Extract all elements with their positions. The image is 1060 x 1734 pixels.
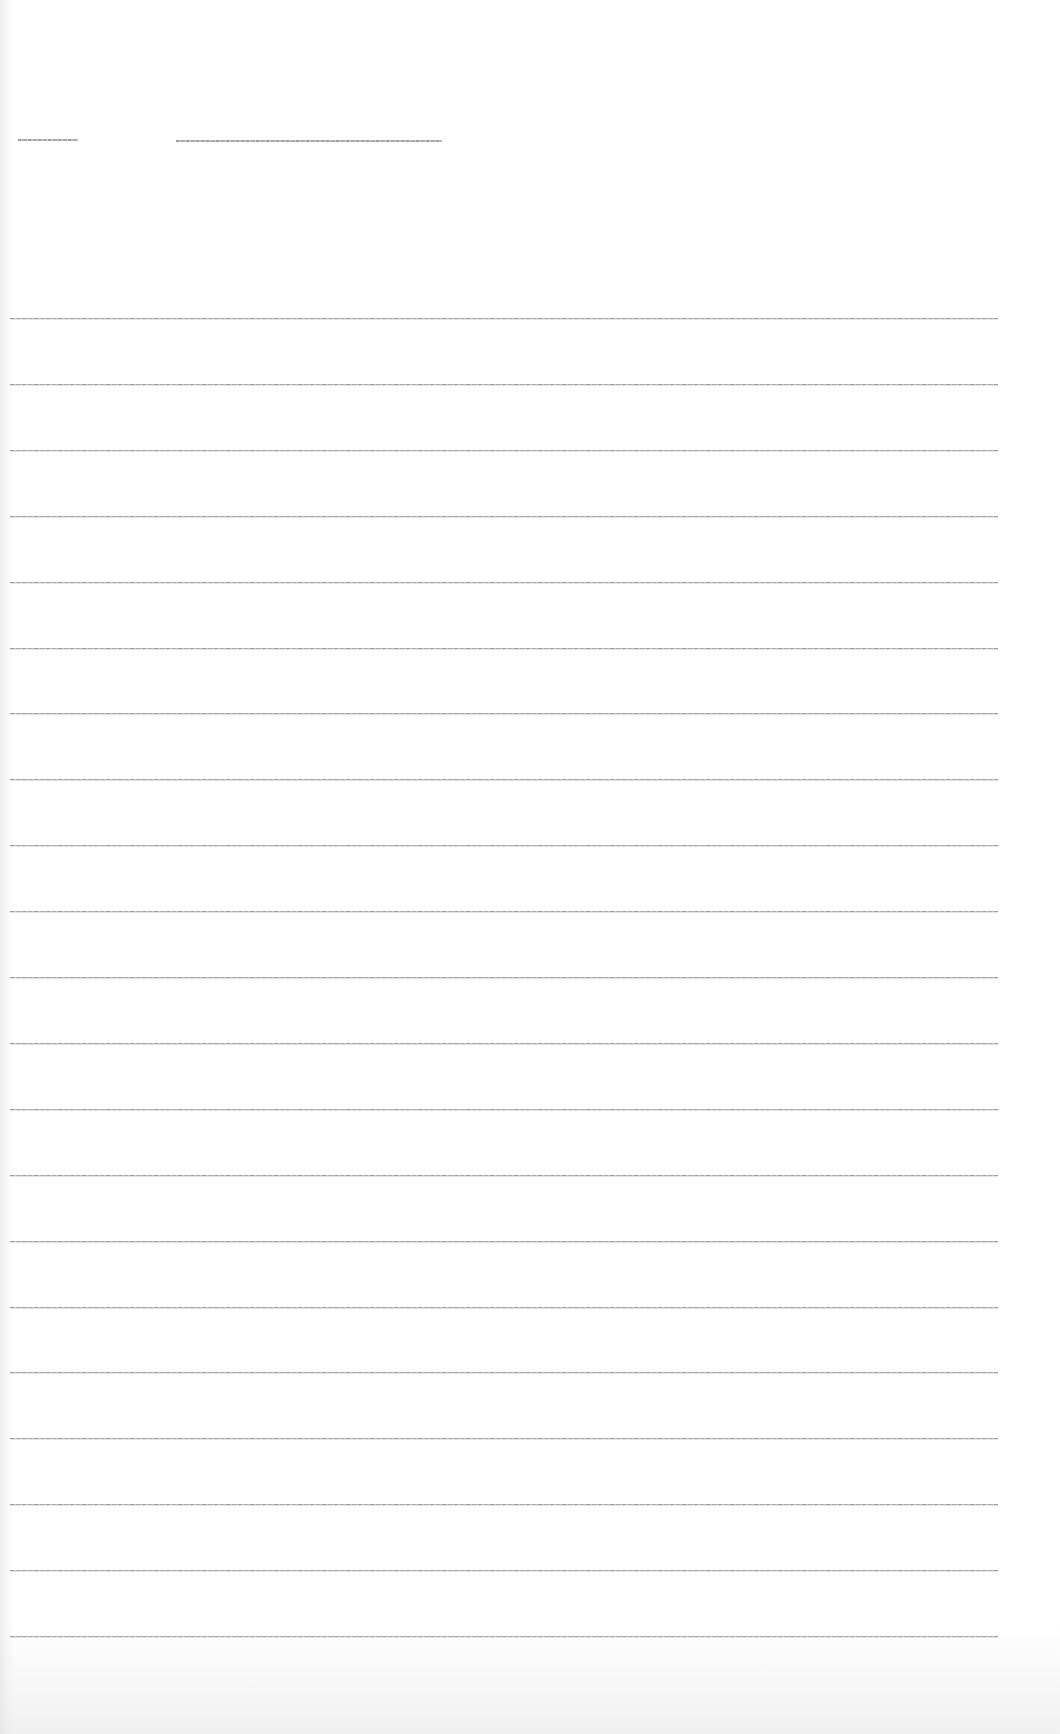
ruled-line (10, 516, 998, 517)
ruled-line (10, 582, 998, 583)
ruled-line (10, 1372, 998, 1373)
ruled-line (10, 1109, 998, 1110)
ruled-paper-page (0, 0, 1060, 1734)
ruled-line (10, 450, 998, 451)
ruled-line (10, 1043, 998, 1044)
ruled-line (10, 779, 998, 780)
ruled-line (10, 1570, 998, 1571)
ruled-line (10, 845, 998, 846)
header-field-line-2 (176, 140, 442, 142)
ruled-line (10, 911, 998, 912)
ruled-line (10, 1241, 998, 1242)
ruled-line (10, 977, 998, 978)
ruled-line (10, 1175, 998, 1176)
ruled-line (10, 713, 998, 714)
header-field-line-1 (18, 139, 78, 141)
ruled-line (10, 1438, 998, 1439)
ruled-line (10, 648, 998, 649)
ruled-line (10, 1307, 998, 1308)
ruled-line (10, 1504, 998, 1505)
ruled-line (10, 384, 998, 385)
ruled-line (10, 1636, 998, 1637)
ruled-line (10, 318, 998, 319)
